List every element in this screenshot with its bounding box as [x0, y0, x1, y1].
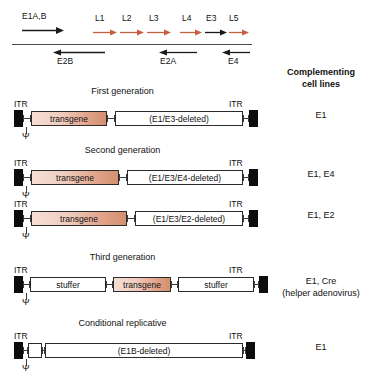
- gene-label-e2b: E2B: [57, 56, 73, 66]
- gene-label-l1: L1: [95, 13, 105, 23]
- construct-title: Second generation: [0, 145, 245, 155]
- gene-label-e4: E4: [228, 56, 239, 66]
- segment-linker: [119, 177, 127, 178]
- adenovirus-genome-map: E1A,B L1 L2 L3 L4 E3 L5: [0, 0, 265, 68]
- gene-arrow-e1ab: [22, 26, 64, 35]
- itr-label-right: ITR: [229, 199, 243, 209]
- itr-box-right: [246, 342, 255, 359]
- psi-packaging-signal: Ψ: [22, 364, 30, 373]
- gene-label-l4: L4: [182, 13, 192, 23]
- construct-track: transgene (E1/E3/E2-deleted): [14, 210, 258, 227]
- gene-label-l5: L5: [229, 13, 239, 23]
- itr-box-left: [14, 110, 23, 127]
- gene-label-l3: L3: [149, 13, 159, 23]
- cell-line-second-generation: E1, E4: [265, 169, 377, 181]
- itr-label-left: ITR: [14, 331, 28, 341]
- gene-label-e2a: E2A: [160, 56, 176, 66]
- itr-box-left: [14, 342, 23, 359]
- segment-deletion: (E1/E3/E2-deleted): [135, 211, 243, 226]
- segment-linker: [171, 284, 178, 285]
- segment-stuffer-left: stuffer: [30, 277, 106, 292]
- psi-packaging-signal: Ψ: [22, 132, 30, 141]
- segment-linker: [243, 177, 249, 178]
- construct-title: Conditional replicative: [0, 318, 245, 328]
- itr-label-right: ITR: [229, 331, 243, 341]
- gene-arrow-e3: [205, 28, 227, 37]
- cell-line-first-generation: E1: [265, 110, 377, 122]
- gene-arrow-l4: [180, 28, 202, 37]
- itr-label-left: ITR: [14, 99, 28, 109]
- genome-baseline: [12, 44, 252, 45]
- itr-label-right: ITR: [229, 158, 243, 168]
- construct-title: First generation: [0, 86, 245, 96]
- segment-deletion: (E1/E3-deleted): [115, 111, 243, 126]
- psi-packaging-signal: Ψ: [22, 232, 30, 241]
- itr-label-right: ITR: [229, 99, 243, 109]
- segment-linker: [243, 218, 249, 219]
- adenovirus-vector-diagram: E1A,B L1 L2 L3 L4 E3 L5: [0, 0, 377, 378]
- segment-deletion: (E1/E3/E4-deleted): [127, 170, 243, 185]
- gene-arrow-l5: [229, 28, 249, 37]
- segment-linker: [23, 218, 31, 219]
- segment-stuffer-right: stuffer: [178, 277, 254, 292]
- segment-linker: [254, 284, 259, 285]
- gene-arrow-l3: [147, 28, 171, 37]
- cell-line-third-generation-note: (helper adenovirus): [265, 288, 377, 300]
- complementing-heading-line1: Complementing: [265, 66, 377, 78]
- itr-box-right: [249, 169, 258, 186]
- segment-transgene: transgene: [31, 111, 107, 126]
- segment-e1a-remnant: [28, 343, 42, 358]
- segment-linker: [23, 350, 28, 351]
- cell-line-conditional-replicative: E1: [265, 342, 377, 354]
- itr-box-left: [14, 169, 23, 186]
- construct-track: stuffer transgene stuffer: [14, 276, 268, 293]
- segment-transgene: transgene: [113, 277, 171, 292]
- segment-linker: [107, 118, 115, 119]
- gene-label-e1ab: E1A,B: [22, 11, 47, 21]
- itr-label-right: ITR: [229, 265, 243, 275]
- itr-box-left: [14, 210, 23, 227]
- gene-arrow-l1: [93, 28, 117, 37]
- gene-label-e3: E3: [206, 13, 217, 23]
- segment-linker: [243, 118, 249, 119]
- construct-title: Third generation: [0, 252, 245, 262]
- segment-linker: [243, 350, 246, 351]
- cell-line-e1-e3-e2-deleted: E1, E2: [265, 210, 377, 222]
- gene-arrow-l2: [120, 28, 144, 37]
- itr-label-left: ITR: [14, 265, 28, 275]
- cell-line-third-generation: E1, Cre: [265, 276, 377, 288]
- segment-transgene: transgene: [31, 170, 119, 185]
- itr-box-left: [14, 276, 23, 293]
- segment-deletion: (E1B-deleted): [45, 343, 243, 358]
- segment-transgene: transgene: [31, 211, 127, 226]
- complementing-cell-lines-column: Complementing cell lines E1 E1, E4 E1, E…: [265, 0, 377, 378]
- segment-linker: [23, 284, 30, 285]
- segment-linker: [23, 118, 31, 119]
- gene-label-l2: L2: [122, 13, 132, 23]
- itr-box-right: [249, 110, 258, 127]
- segment-linker: [42, 350, 45, 351]
- psi-packaging-signal: Ψ: [22, 298, 30, 307]
- construct-track: transgene (E1/E3/E4-deleted): [14, 169, 258, 186]
- itr-label-left: ITR: [14, 158, 28, 168]
- itr-label-left: ITR: [14, 199, 28, 209]
- itr-box-right: [249, 210, 258, 227]
- construct-track: transgene (E1/E3-deleted): [14, 110, 258, 127]
- construct-track: (E1B-deleted): [14, 342, 255, 359]
- segment-linker: [127, 218, 135, 219]
- complementing-heading-line2: cell lines: [265, 78, 377, 90]
- segment-linker: [23, 177, 31, 178]
- segment-linker: [106, 284, 113, 285]
